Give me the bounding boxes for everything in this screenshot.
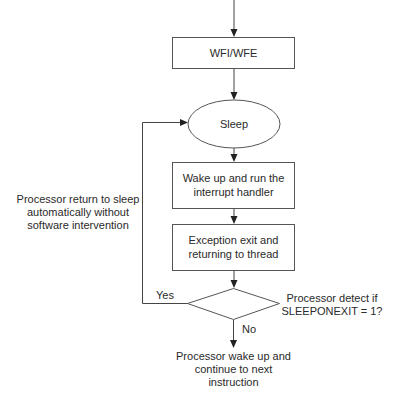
end-line-1: Processor wake up and bbox=[176, 350, 291, 362]
loop-note-line-3: software intervention bbox=[27, 219, 129, 231]
arrow-to-sleep bbox=[231, 69, 238, 100]
end-line-3: instruction bbox=[208, 376, 258, 388]
no-arrow bbox=[230, 320, 237, 348]
wake-line-1: Wake up and run the bbox=[183, 172, 285, 184]
exception-exit-box: Exception exit and returning to thread bbox=[173, 225, 295, 271]
flowchart: WFI/WFE Sleep Wake up and run the interr… bbox=[0, 0, 396, 409]
exit-line-2: returning to thread bbox=[189, 248, 279, 260]
end-line-2: continue to next bbox=[195, 363, 273, 375]
loop-note-line-1: Processor return to sleep bbox=[17, 193, 140, 205]
wfi-wfe-label: WFI/WFE bbox=[210, 47, 258, 59]
entry-arrow bbox=[231, 0, 238, 37]
wake-handler-box: Wake up and run the interrupt handler bbox=[173, 163, 295, 209]
decision-diamond bbox=[188, 289, 280, 320]
arrow-to-decision bbox=[231, 271, 238, 288]
arrow-to-wake bbox=[231, 148, 238, 162]
wfi-wfe-box: WFI/WFE bbox=[173, 38, 295, 69]
yes-loop-arrow bbox=[143, 119, 189, 304]
decision-line-2: SLEEPONEXIT = 1? bbox=[282, 305, 383, 317]
sleep-state: Sleep bbox=[188, 100, 280, 148]
no-label: No bbox=[242, 323, 256, 335]
sleep-label: Sleep bbox=[220, 118, 248, 130]
loop-note-line-2: automatically without bbox=[27, 206, 129, 218]
exit-line-1: Exception exit and bbox=[189, 234, 279, 246]
decision-line-1: Processor detect if bbox=[286, 292, 378, 304]
yes-label: Yes bbox=[156, 289, 174, 301]
arrow-to-exit bbox=[231, 209, 238, 224]
wake-line-2: interrupt handler bbox=[193, 186, 273, 198]
